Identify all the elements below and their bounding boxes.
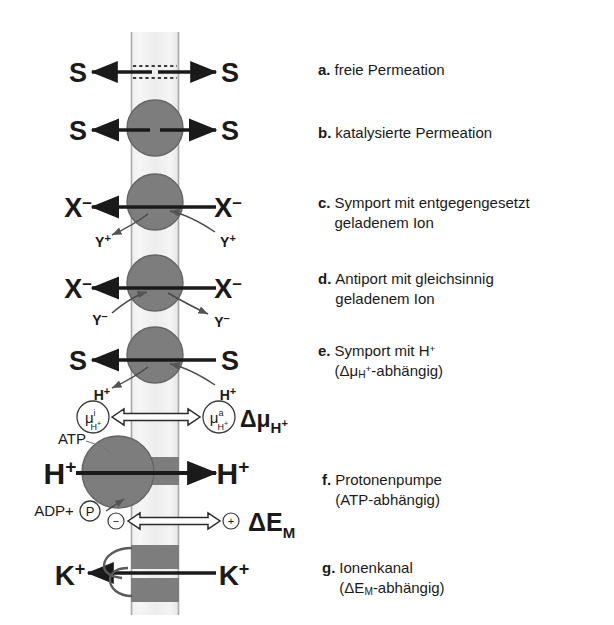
carrier-protein-d xyxy=(127,255,183,311)
legend-key-f: f. xyxy=(322,470,331,490)
row-g-ion-channel: K+ K+ xyxy=(55,545,250,602)
label-a-left: S xyxy=(69,58,87,88)
legend-item-a: a. freie Permeation xyxy=(318,60,445,80)
legend-g-line2-pre: (ΔE xyxy=(339,579,364,596)
label-d-cosub-left: Y– xyxy=(92,310,107,328)
legend-e-line2-sub: H xyxy=(358,369,365,380)
legend-item-f: f. Protonenpumpe(ATP-abhängig) xyxy=(322,470,442,509)
label-d-cosub-right: Y– xyxy=(214,312,229,330)
legend-f-line1: Protonenpumpe xyxy=(335,471,442,488)
legend-item-d: d. Antiport mit gleichsinnig geladenem I… xyxy=(318,269,494,308)
label-f-right: H+ xyxy=(217,456,250,490)
legend-item-g: g. Ionenkanal(ΔEM-abhängig) xyxy=(322,558,445,598)
legend-key-d: d. xyxy=(318,269,331,289)
label-g-right: K+ xyxy=(219,559,250,591)
carrier-protein-c xyxy=(127,174,183,230)
label-f-left: H+ xyxy=(44,456,77,490)
legend-g-line2-sub: M xyxy=(364,586,373,597)
label-e-cosub-right: H+ xyxy=(220,385,237,403)
legend-item-e: e. Symport mit H+(ΔμH+-abhängig) xyxy=(318,341,443,381)
legend-text-e: Symport mit H+(ΔμH+-abhängig) xyxy=(335,341,444,381)
delta-e-label: ΔEM xyxy=(248,508,295,541)
legend-key-g: g. xyxy=(322,558,335,578)
positive-sign: + xyxy=(228,515,234,527)
legend-text-d: Antiport mit gleichsinnig geladenem Ion xyxy=(335,269,493,308)
negative-sign: − xyxy=(113,515,119,527)
row-b-catalysed-permeation: S S xyxy=(69,100,239,156)
legend-text-f: Protonenpumpe(ATP-abhängig) xyxy=(335,470,442,509)
label-e-left: S xyxy=(69,346,87,376)
label-d-left: X– xyxy=(64,274,91,304)
label-phosphate: P xyxy=(86,504,95,519)
legend-text-a: freie Permeation xyxy=(335,60,445,80)
legend-f-line2: (ATP-abhängig) xyxy=(335,491,440,508)
label-e-right: S xyxy=(221,346,239,376)
label-c-cosub-left: Y+ xyxy=(95,232,111,250)
channel-segment-lower xyxy=(131,578,179,602)
diagram-canvas: S S S S X– X– Y+ Y+ X– X– Y– Y– S xyxy=(0,0,307,625)
carrier-protein-b xyxy=(127,100,183,156)
carrier-protein-e xyxy=(127,327,183,383)
membrane-transport-diagram: S S S S X– X– Y+ Y+ X– X– Y– Y– S xyxy=(0,0,307,625)
legend-e-sup: + xyxy=(430,343,436,354)
legend-text-b: katalysierte Permeation xyxy=(335,123,492,143)
label-atp: ATP xyxy=(58,430,86,447)
label-d-right: X– xyxy=(214,274,241,304)
label-c-left: X– xyxy=(64,193,91,223)
legend-item-b: b. katalysierte Permeation xyxy=(318,123,492,143)
label-g-left: K+ xyxy=(55,559,86,591)
label-c-right: X– xyxy=(214,193,241,223)
legend-key-b: b. xyxy=(318,123,331,143)
delta-mu-label: ΔμH+ xyxy=(240,406,288,436)
legend-key-a: a. xyxy=(318,60,331,80)
label-a-right: S xyxy=(221,58,239,88)
label-b-left: S xyxy=(69,116,87,146)
legend-key-e: e. xyxy=(318,341,331,361)
legend-g-line1: Ionenkanal xyxy=(339,559,412,576)
legend-item-c: c. Symport mit entgegengesetzt geladenem… xyxy=(318,193,530,232)
row-proton-motive-force: μiH+ μaH+ ΔμH+ xyxy=(77,401,288,436)
legend-g-line2-post: -abhängig) xyxy=(373,579,445,596)
label-c-cosub-right: Y+ xyxy=(220,232,236,250)
legend-key-c: c. xyxy=(318,193,331,213)
legend-e-line2-pre: (Δμ xyxy=(335,362,359,379)
legend-e-line1: Symport mit H xyxy=(335,342,430,359)
label-adp: ADP+ xyxy=(34,502,74,519)
legend-text-g: Ionenkanal(ΔEM-abhängig) xyxy=(339,558,444,598)
legend-e-line2-post: -abhängig) xyxy=(371,362,443,379)
channel-segment-upper xyxy=(131,545,179,569)
legend-list: a. freie Permeation b. katalysierte Perm… xyxy=(308,0,614,625)
legend-text-c: Symport mit entgegengesetzt geladenem Io… xyxy=(335,193,530,232)
label-e-cosub-left: H+ xyxy=(94,385,111,403)
label-b-right: S xyxy=(221,116,239,146)
